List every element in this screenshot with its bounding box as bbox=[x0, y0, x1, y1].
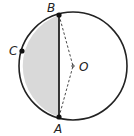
label-b: B bbox=[47, 1, 55, 15]
label-c: C bbox=[9, 44, 18, 58]
point-a-dot bbox=[56, 114, 61, 119]
point-b-dot bbox=[56, 12, 61, 17]
circle-diagram: B C A O bbox=[0, 0, 134, 136]
point-c-dot bbox=[19, 48, 24, 53]
shaded-segment bbox=[23, 15, 59, 117]
label-a: A bbox=[53, 122, 62, 136]
radius-ob bbox=[59, 15, 73, 66]
diagram-canvas: B C A O bbox=[0, 0, 134, 136]
radius-oa bbox=[59, 66, 73, 117]
label-o: O bbox=[79, 60, 88, 74]
